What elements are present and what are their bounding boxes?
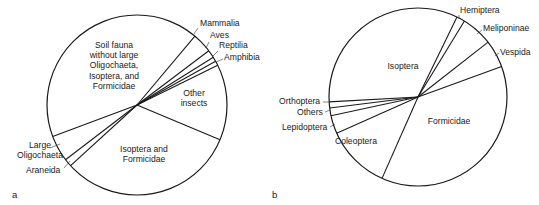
slice-label-aves: Aves	[210, 30, 229, 40]
panel-label-a: a	[12, 189, 18, 200]
leader-line	[206, 42, 209, 48]
slice-label-orthoptera: Orthoptera	[279, 96, 320, 106]
leader-line	[213, 51, 218, 56]
slice-label-araneida: Araneida	[26, 165, 61, 175]
slice-label-others: Others	[297, 107, 323, 117]
leader-line	[194, 28, 198, 34]
pie-chart-b: HemipteraMeliponinaeVespidaFormicidaeCol…	[279, 5, 531, 186]
slice-label-reptilia: Reptilia	[219, 40, 248, 50]
cropped-caption	[0, 200, 539, 205]
leader-line	[325, 110, 330, 112]
leader-line	[216, 59, 223, 62]
slice-label-isoptera-and-formicidae: Isoptera andFormicidae	[120, 144, 168, 164]
panel-label-b: b	[272, 189, 277, 200]
slice-label-vespida: Vespida	[500, 47, 531, 57]
pie-chart-a: MammaliaAvesReptiliaAmphibiaOtherinsects…	[17, 15, 260, 195]
slice-label-soil-fauna-without-large-oligochaeta-isoptera-and-formicidae: Soil faunawithout largeOligochaeta,Isopt…	[89, 40, 140, 91]
slice-label-coleoptera: Coleoptera	[335, 136, 377, 146]
slice-label-formicidae: Formicidae	[428, 116, 471, 126]
slice-label-amphibia: Amphibia	[224, 52, 260, 62]
slice-label-mammalia: Mammalia	[200, 18, 240, 28]
slice-label-hemiptera: Hemiptera	[460, 5, 500, 15]
figure: MammaliaAvesReptiliaAmphibiaOtherinsects…	[0, 0, 539, 205]
slice-label-meliponinae: Meliponinae	[483, 23, 530, 33]
slice-label-lepidoptera: Lepidoptera	[282, 122, 328, 132]
slice-label-isoptera: Isoptera	[387, 61, 418, 71]
slice-label-other-insects: Otherinsects	[181, 88, 208, 108]
